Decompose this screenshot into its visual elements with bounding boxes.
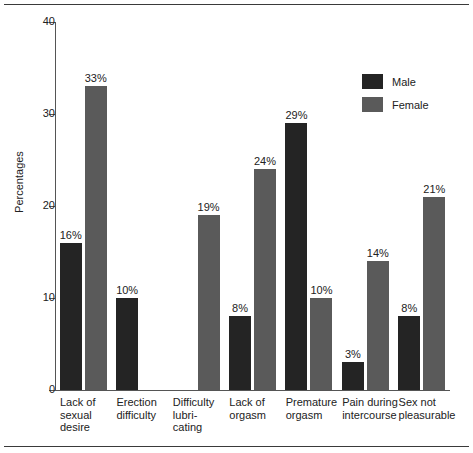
- legend-swatch: [362, 97, 383, 112]
- x-axis-baseline: [55, 390, 450, 391]
- category-label-line: Difficulty: [173, 396, 233, 409]
- bar-male-5: 3%: [342, 362, 364, 390]
- chart-legend: MaleFemale: [362, 74, 429, 120]
- bar-value-label: 10%: [116, 284, 138, 296]
- legend-label: Female: [392, 99, 429, 111]
- category-label: Pain duringintercourse: [342, 396, 402, 421]
- category-label-line: Lack of: [229, 396, 289, 409]
- legend-swatch: [362, 74, 383, 89]
- bar-value-label: 29%: [285, 109, 307, 121]
- bar-male-0: 16%: [60, 243, 82, 390]
- y-axis-title: Percentages: [13, 122, 25, 242]
- category-label-line: desire: [60, 421, 120, 434]
- y-axis-tick-label: 10: [11, 291, 55, 303]
- bar-female-5: 14%: [367, 261, 389, 390]
- bar-male-1: 10%: [116, 298, 138, 390]
- category-label: Difficultylubri-cating: [173, 396, 233, 434]
- category-label: Lack oforgasm: [229, 396, 289, 421]
- category-label-line: cating: [173, 421, 233, 434]
- category-label: Sex notpleasurable: [399, 396, 459, 421]
- category-label-line: sexual: [60, 409, 120, 422]
- bar-female-0: 33%: [85, 86, 107, 390]
- category-label-line: Sex not: [399, 396, 459, 409]
- category-label-line: difficulty: [116, 409, 176, 422]
- bar-value-label: 19%: [198, 201, 220, 213]
- y-axis-tick-label: 30: [11, 107, 55, 119]
- bar-value-label: 8%: [232, 302, 248, 314]
- category-label-line: Erection: [116, 396, 176, 409]
- bar-female-2: 19%: [198, 215, 220, 390]
- bar-chart-figure: Percentages 010203040 16%33%10%19%8%24%2…: [0, 0, 473, 453]
- y-axis-tick-label: 0: [11, 383, 55, 395]
- category-label: Erectiondifficulty: [116, 396, 176, 421]
- bar-female-4: 10%: [310, 298, 332, 390]
- bar-value-label: 8%: [401, 302, 417, 314]
- legend-item-female: Female: [362, 97, 429, 112]
- y-axis-line: [55, 22, 56, 391]
- category-label-line: Pain during: [342, 396, 402, 409]
- category-label-line: Premature: [286, 396, 346, 409]
- bar-male-6: 8%: [398, 316, 420, 390]
- bar-female-3: 24%: [254, 169, 276, 390]
- bar-value-label: 24%: [254, 155, 276, 167]
- bar-female-6: 21%: [423, 197, 445, 390]
- category-label-line: intercourse: [342, 409, 402, 422]
- category-label-line: orgasm: [286, 409, 346, 422]
- category-label-line: Lack of: [60, 396, 120, 409]
- y-axis-tick-label: 40: [11, 15, 55, 27]
- category-label-line: lubri-: [173, 409, 233, 422]
- bar-value-label: 3%: [345, 348, 361, 360]
- category-label-line: pleasurable: [399, 409, 459, 422]
- bar-value-label: 16%: [60, 229, 82, 241]
- bar-value-label: 21%: [423, 183, 445, 195]
- bar-value-label: 33%: [85, 72, 107, 84]
- bar-male-3: 8%: [229, 316, 251, 390]
- category-label-line: orgasm: [229, 409, 289, 422]
- legend-label: Male: [392, 76, 416, 88]
- bar-value-label: 10%: [310, 284, 332, 296]
- category-label: Lack ofsexualdesire: [60, 396, 120, 434]
- bar-male-4: 29%: [285, 123, 307, 390]
- y-axis-tick-label: 20: [11, 199, 55, 211]
- legend-item-male: Male: [362, 74, 429, 89]
- category-label: Prematureorgasm: [286, 396, 346, 421]
- bar-value-label: 14%: [367, 247, 389, 259]
